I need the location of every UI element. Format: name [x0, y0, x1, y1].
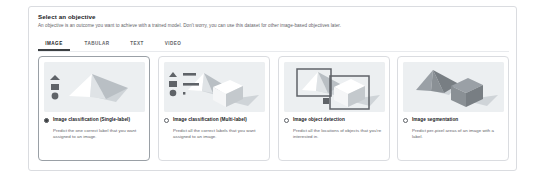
illustration-multi-label — [164, 62, 265, 112]
radio-button[interactable] — [403, 118, 408, 123]
option-row: Image classification (Multi-label) — [164, 117, 267, 125]
option-row: Image classification (Single-label) — [44, 117, 147, 125]
objective-card-image-object-detection[interactable]: Image object detection Predict all the l… — [278, 56, 390, 161]
objective-card-image-classification-single-label[interactable]: Image classification (Single-label) Pred… — [38, 56, 150, 161]
radio-dot-icon — [45, 119, 48, 122]
option-title: Image classification (Single-label) — [53, 117, 130, 122]
objective-card-image-segmentation[interactable]: Image segmentation Predict per-pixel are… — [397, 56, 509, 161]
objective-card-list: Image classification (Single-label) Pred… — [38, 56, 509, 164]
tab-tabular[interactable]: TABULAR — [78, 37, 116, 51]
card-body: Image object detection Predict all the l… — [284, 117, 387, 125]
option-description: Predict per-pixel areas of an image with… — [412, 128, 502, 141]
select-objective-panel: Select an objective An objective is an o… — [28, 6, 517, 171]
option-row: Image object detection — [284, 117, 387, 125]
option-title: Image classification (Multi-label) — [173, 117, 247, 122]
option-description: Predict the one correct label that you w… — [53, 128, 143, 141]
radio-button[interactable] — [284, 118, 289, 123]
tab-video[interactable]: VIDEO — [158, 37, 188, 51]
tab-active-indicator — [38, 49, 70, 51]
card-body: Image classification (Multi-label) Predi… — [164, 117, 267, 125]
tab-tabular-label: TABULAR — [84, 41, 109, 46]
tab-image-label: IMAGE — [45, 41, 62, 46]
card-body: Image segmentation Predict per-pixel are… — [403, 117, 506, 125]
option-description: Predict all the correct labels that you … — [173, 128, 263, 141]
tabs-divider — [38, 51, 509, 52]
option-description: Predict all the locations of objects tha… — [293, 128, 383, 141]
illustration-segmentation — [403, 62, 504, 112]
option-row: Image segmentation — [403, 117, 506, 125]
card-body: Image classification (Single-label) Pred… — [44, 117, 147, 125]
illustration-object-detection — [284, 62, 385, 112]
page-subtitle: An objective is an outcome you want to a… — [38, 23, 508, 28]
radio-button[interactable] — [164, 118, 169, 123]
option-title: Image object detection — [293, 117, 345, 122]
radio-button[interactable] — [44, 118, 49, 123]
page-title: Select an objective — [38, 13, 96, 20]
objective-type-tabs: IMAGE TABULAR TEXT VIDEO — [38, 37, 509, 52]
option-title: Image segmentation — [412, 117, 458, 122]
tab-text[interactable]: TEXT — [124, 37, 150, 51]
tab-image[interactable]: IMAGE — [38, 37, 70, 51]
tab-text-label: TEXT — [130, 41, 144, 46]
tab-video-label: VIDEO — [165, 41, 182, 46]
illustration-single-label — [44, 62, 145, 112]
objective-card-image-classification-multi-label[interactable]: Image classification (Multi-label) Predi… — [158, 56, 270, 161]
